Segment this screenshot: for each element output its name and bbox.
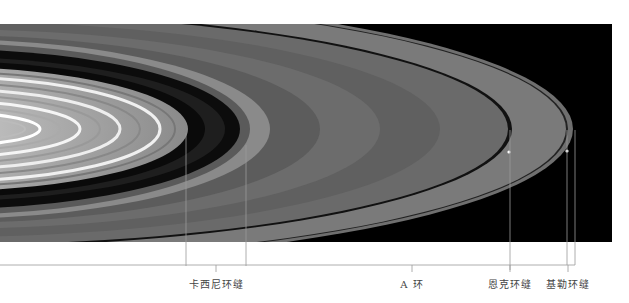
moon-pan bbox=[507, 150, 510, 153]
label-a-ring: A 环 bbox=[400, 276, 423, 291]
label-encke-gap: 恩克环缝 bbox=[488, 276, 532, 291]
label-keeler-gap: 基勒环缝 bbox=[546, 276, 590, 291]
saturn-rings-photo bbox=[0, 24, 612, 242]
label-cassini-division: 卡西尼环缝 bbox=[189, 276, 244, 291]
rings-image bbox=[0, 24, 612, 242]
moon-daphnis bbox=[565, 149, 568, 152]
